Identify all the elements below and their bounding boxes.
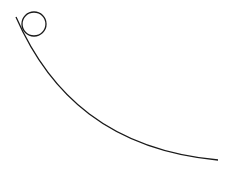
curve-line [16, 17, 218, 160]
diagram-canvas [0, 0, 225, 171]
circle-shape [22, 12, 46, 36]
